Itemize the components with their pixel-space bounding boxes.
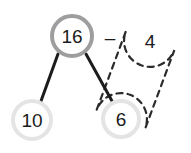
subtrahend-label: 4 <box>145 31 156 52</box>
node-part-left-label: 10 <box>21 110 42 131</box>
branch-to-10 <box>41 54 58 101</box>
node-whole-16: 16 <box>52 16 92 56</box>
node-whole-label: 16 <box>61 26 82 47</box>
node-part-6: 6 <box>103 101 139 137</box>
branch-connectors <box>41 54 112 101</box>
number-bond-figure: 16 10 6 – 4 <box>0 0 191 153</box>
diagram-canvas: 16 10 6 – 4 <box>0 0 191 153</box>
node-part-10: 10 <box>13 101 51 139</box>
node-part-right-label: 6 <box>116 109 127 130</box>
minus-operator: – <box>105 27 116 48</box>
